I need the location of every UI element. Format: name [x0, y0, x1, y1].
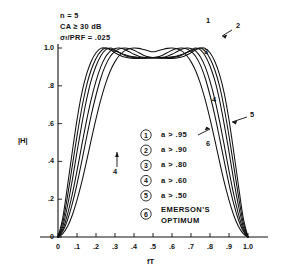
legend-item-2-label: a > .90	[161, 146, 187, 154]
x-tick-label: .4	[127, 243, 141, 250]
legend-item-1-number: 1	[140, 132, 152, 139]
leader-line-5-right	[232, 117, 247, 122]
curve-callout-4: 4	[212, 96, 216, 103]
curve-callout-6: 6	[206, 140, 210, 147]
curve-1	[58, 48, 248, 237]
curve-3	[58, 48, 248, 237]
legend-item-emerson-number: 6	[140, 211, 152, 218]
x-tick-label: .7	[184, 243, 198, 250]
param-n: n = 5	[60, 12, 79, 19]
x-tick-label: .3	[108, 243, 122, 250]
x-tick-label: .1	[70, 243, 84, 250]
y-ticks-group	[58, 48, 62, 237]
x-tick-label: .5	[146, 243, 160, 250]
x-tick-label: .6	[165, 243, 179, 250]
x-tick-label: 1.0	[241, 243, 255, 250]
legend-item-5-label: a > .50	[161, 192, 187, 200]
y-tick-label: .2	[28, 195, 54, 202]
param-clutter-attenuation: CA ≥ 30 dB	[60, 23, 102, 30]
legend-item-emerson-label-1: EMERSON'S	[161, 206, 210, 214]
curve-callout-4-left: 4	[113, 168, 117, 175]
legend-item-emerson-label-2: OPTIMUM	[161, 217, 200, 225]
curve-5	[58, 48, 248, 237]
legend-item-3-label: a > .80	[161, 161, 187, 169]
legend-item-4-number: 4	[140, 177, 152, 184]
leader-line-5-left	[198, 129, 210, 135]
param-sigma-prf: σf/PRF = .025	[60, 34, 110, 41]
x-axis-label: fT	[147, 258, 154, 266]
curves-group	[58, 48, 248, 237]
y-tick-label: 0	[28, 233, 54, 240]
curve-callout-1: 1	[206, 17, 210, 24]
x-tick-label: 0	[51, 243, 65, 250]
legend-item-1-label: a > .95	[161, 131, 187, 139]
y-axis-label: |H|	[18, 137, 28, 145]
legend-item-3-number: 3	[140, 162, 152, 169]
y-tick-label: 1.0	[28, 44, 54, 51]
x-ticks-group	[58, 233, 248, 237]
y-tick-label: .4	[28, 157, 54, 164]
legend-item-2-number: 2	[140, 147, 152, 154]
leader-arrow-4-left	[115, 152, 119, 157]
x-tick-label: .8	[203, 243, 217, 250]
y-tick-label: .6	[28, 120, 54, 127]
curve-callout-2: 2	[236, 22, 240, 29]
figure-container: n = 5 CA ≥ 30 dB σf/PRF = .025 |H| fT 1 …	[0, 0, 302, 277]
y-tick-label: .8	[28, 82, 54, 89]
legend-item-4-label: a > .60	[161, 177, 187, 185]
sigma-suffix: /PRF = .025	[67, 33, 110, 42]
x-tick-label: .9	[222, 243, 236, 250]
legend-item-5-number: 5	[140, 192, 152, 199]
legend-circles-group	[141, 130, 151, 219]
x-tick-label: .2	[89, 243, 103, 250]
curve-callout-3: 3	[204, 48, 208, 55]
curve-callout-5: 5	[250, 111, 254, 118]
